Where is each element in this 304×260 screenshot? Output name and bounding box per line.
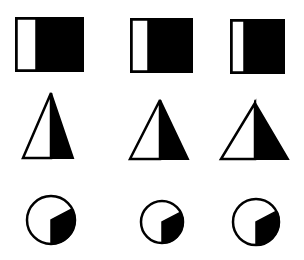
half-shaded-triangle	[130, 100, 188, 159]
half-shaded-triangle	[23, 93, 73, 158]
shapes-figure	[0, 0, 304, 260]
quarter-shaded-circle	[233, 199, 279, 245]
half-shaded-square	[230, 19, 285, 74]
quarter-shaded-circle	[141, 201, 183, 243]
triangles-row	[23, 93, 288, 159]
half-shaded-square	[130, 18, 193, 73]
half-shaded-square	[15, 17, 84, 72]
squares-row	[15, 17, 285, 74]
half-shaded-triangle	[221, 103, 288, 159]
quarter-shaded-circle	[27, 196, 75, 244]
circles-row	[27, 196, 279, 245]
